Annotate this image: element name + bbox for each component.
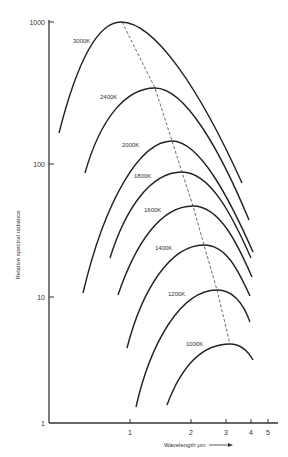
- curves: [59, 22, 253, 407]
- label-1200K: 1200K: [168, 291, 185, 297]
- x-tick-label-1: 1: [128, 429, 132, 436]
- curve-1200K: [136, 290, 250, 407]
- label-2400K: 2400K: [100, 94, 117, 100]
- label-2000K: 2000K: [122, 142, 139, 148]
- label-1000K: 1000K: [186, 341, 203, 347]
- y-tick-label-100: 100: [33, 161, 45, 168]
- label-1800K: 1800K: [134, 173, 151, 179]
- curve-labels: 3000K 2400K 2000K 1800K 1600K 1400K 1200…: [73, 38, 203, 347]
- y-tick-label-1000: 1000: [29, 19, 45, 26]
- arrow-head-icon: [228, 443, 233, 447]
- y-tick-label-1: 1: [41, 420, 45, 427]
- curve-1400K: [127, 245, 250, 348]
- y-axis-title: Relative spectral radiance: [15, 210, 21, 280]
- label-1600K: 1600K: [144, 207, 161, 213]
- blackbody-radiance-chart: 1000 100 10 1 1 2 3 4 5 Relative spectra…: [0, 0, 288, 457]
- x-tick-label-3: 3: [224, 429, 228, 436]
- curve-2000K: [83, 141, 253, 293]
- x-tick-label-5: 5: [266, 429, 270, 436]
- axes: 1000 100 10 1 1 2 3 4 5 Relative spectra…: [15, 19, 278, 448]
- curve-1800K: [110, 172, 251, 258]
- curve-3000K: [59, 22, 242, 183]
- x-tick-label-2: 2: [189, 429, 193, 436]
- y-tick-label-10: 10: [37, 294, 45, 301]
- x-tick-label-4: 4: [249, 429, 253, 436]
- label-1400K: 1400K: [155, 245, 172, 251]
- curve-2400K: [85, 88, 249, 220]
- x-axis-title: Wavelength μm: [164, 442, 206, 448]
- label-3000K: 3000K: [73, 38, 90, 44]
- curve-1000K: [167, 344, 253, 405]
